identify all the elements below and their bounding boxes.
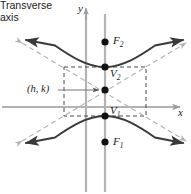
focus-lower-letter: F	[113, 135, 120, 147]
focus-lower-label: F1	[113, 136, 123, 150]
vertex-lower-letter: V	[110, 104, 117, 116]
vertex-upper-subscript: 2	[117, 73, 121, 82]
center-point	[101, 86, 108, 93]
diagram-canvas	[0, 0, 191, 194]
focus-lower-subscript: 1	[120, 141, 124, 150]
vertex-lower-subscript: 1	[117, 110, 121, 119]
focus-upper-subscript: 2	[120, 40, 124, 49]
center-coordinates-label: (h, k)	[27, 84, 49, 95]
x-axis-label: x	[178, 107, 183, 118]
focus-upper-letter: F	[113, 34, 120, 46]
hyperbola-diagram: y x Transverse axis F2 F1 V2 V1 (h, k)	[0, 0, 191, 194]
vertex-lower-label: V1	[110, 105, 120, 119]
focus-upper-label: F2	[113, 35, 123, 49]
upper-branch-left	[26, 40, 105, 67]
vertex-upper-letter: V	[110, 67, 117, 79]
vertex-upper-point	[101, 63, 108, 70]
vertex-upper-label: V2	[110, 68, 120, 82]
focus-upper-point	[101, 38, 108, 45]
lower-branch-left	[26, 116, 105, 143]
y-axis-label: y	[78, 3, 83, 14]
focus-lower-point	[101, 138, 108, 145]
vertex-lower-point	[101, 112, 108, 119]
